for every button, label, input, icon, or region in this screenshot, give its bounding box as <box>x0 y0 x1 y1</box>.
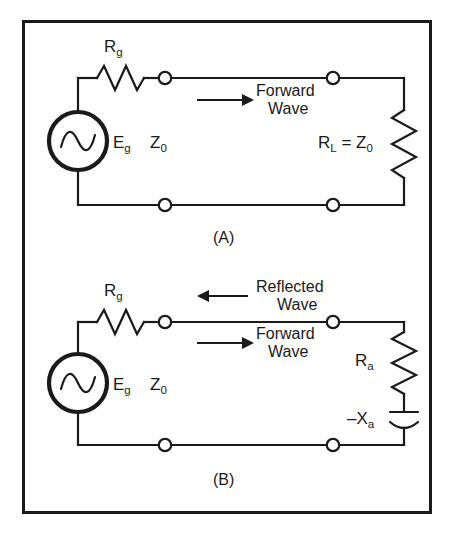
capacitor-xa-symbol <box>390 412 418 428</box>
label-xa-b: –Xa <box>347 409 375 430</box>
label-rg-a: Rg <box>104 37 123 58</box>
forward-wave-label-b-line2: Wave <box>268 343 308 360</box>
label-eg-a: Eg <box>113 133 131 154</box>
label-ra-b: Ra <box>355 351 374 372</box>
forward-wave-label-b-line1: Forward <box>256 325 315 342</box>
terminal-bottom-right <box>327 199 339 211</box>
forward-wave-label-a-line1: Forward <box>256 82 315 99</box>
figure-border <box>24 22 431 513</box>
arrow-head-right-icon <box>242 337 254 349</box>
arrow-head-right-icon <box>242 94 254 106</box>
forward-wave-arrow-a <box>197 94 254 106</box>
terminal-bottom-left <box>159 439 171 451</box>
terminal-top-left <box>159 72 171 84</box>
panel-caption-b: (B) <box>213 471 234 488</box>
terminal-top-left <box>159 316 171 328</box>
terminal-top-right <box>327 316 339 328</box>
resistor-rg-zigzag-b <box>97 310 144 334</box>
resistor-rl-zigzag <box>392 110 416 178</box>
panel-a: Rg Eg Z0 RL = Z0 Forward Wave (A) <box>49 37 416 246</box>
label-rg-b: Rg <box>104 281 123 302</box>
reflected-wave-label-b-line2: Wave <box>277 296 317 313</box>
ac-source-symbol <box>49 112 107 170</box>
terminal-bottom-right <box>327 439 339 451</box>
reflected-wave-arrow-b <box>197 290 248 302</box>
circuit-diagram-svg: Rg Eg Z0 RL = Z0 Forward Wave (A) <box>0 0 456 538</box>
panel-b: Rg Eg Z0 Ra –Xa Reflected Wave Forward W… <box>49 278 418 488</box>
ac-source-symbol <box>49 354 107 412</box>
resistor-rg-zigzag <box>97 66 144 90</box>
label-z0-a: Z0 <box>150 133 167 154</box>
forward-wave-label-a-line2: Wave <box>268 100 308 117</box>
forward-wave-arrow-b <box>197 337 254 349</box>
terminal-bottom-left <box>159 199 171 211</box>
label-eg-b: Eg <box>113 375 131 396</box>
circuit-figure: Rg Eg Z0 RL = Z0 Forward Wave (A) <box>0 0 456 538</box>
capacitor-curved-plate <box>390 422 418 428</box>
arrow-head-left-icon <box>197 290 209 302</box>
terminal-top-right <box>327 72 339 84</box>
label-z0-b: Z0 <box>150 375 167 396</box>
panel-caption-a: (A) <box>213 229 234 246</box>
label-rl-a: RL = Z0 <box>318 133 373 154</box>
resistor-ra-zigzag <box>392 332 416 394</box>
reflected-wave-label-b-line1: Reflected <box>256 278 324 295</box>
